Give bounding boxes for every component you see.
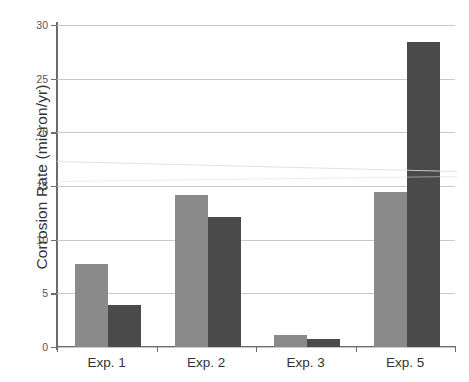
bar-exp-2-series-2: [208, 217, 241, 347]
y-tick-mark: [51, 132, 57, 133]
bar-exp-1-series-1: [75, 264, 108, 347]
x-tick-mark: [57, 346, 58, 352]
y-tick-label: 25: [36, 73, 48, 85]
bar-exp-5-series-2: [407, 42, 440, 347]
gridline: [57, 132, 455, 133]
bar-exp-3-series-1: [274, 335, 307, 347]
y-tick-label: 0: [42, 341, 48, 353]
bar-exp-5-series-1: [374, 192, 407, 347]
bar-chart: Corrosion Rate (micron/yr) 051015202530 …: [0, 0, 469, 382]
y-tick-label: 10: [36, 234, 48, 246]
y-tick-label: 5: [42, 287, 48, 299]
x-tick-mark: [356, 346, 357, 352]
y-tick-mark: [51, 186, 57, 187]
x-tick-mark: [157, 346, 158, 352]
y-tick-mark: [51, 79, 57, 80]
plot-area: 051015202530: [57, 25, 455, 347]
gridline: [57, 186, 455, 187]
x-tick-label-4: Exp. 5: [386, 355, 424, 370]
y-tick-mark: [51, 25, 57, 26]
y-tick-label: 20: [36, 126, 48, 138]
bar-exp-2-series-1: [175, 195, 208, 347]
y-axis-title: Corrosion Rate (micron/yr): [33, 52, 51, 302]
y-tick-mark: [51, 293, 57, 294]
x-tick-label-1: Exp. 1: [88, 355, 126, 370]
x-tick-label-3: Exp. 3: [287, 355, 325, 370]
gridline: [57, 79, 455, 80]
x-tick-mark: [455, 346, 456, 352]
bar-exp-3-series-2: [307, 339, 340, 347]
x-tick-mark: [256, 346, 257, 352]
bar-exp-1-series-2: [108, 305, 141, 347]
y-tick-mark: [51, 240, 57, 241]
gridline: [57, 25, 455, 26]
y-tick-label: 30: [36, 19, 48, 31]
x-tick-label-2: Exp. 2: [187, 355, 225, 370]
y-tick-label: 15: [36, 180, 48, 192]
